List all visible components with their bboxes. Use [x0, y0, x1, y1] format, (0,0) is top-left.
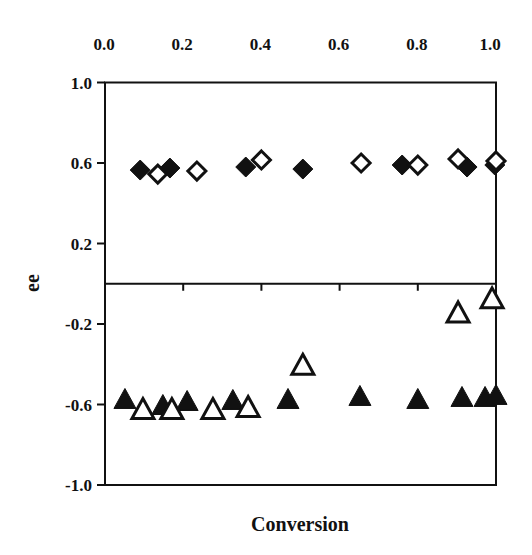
- y-tick-label: 0.2: [71, 235, 92, 254]
- x-axis-title: Conversion: [251, 513, 349, 535]
- scatter-chart: 0.00.20.40.60.81.0 1.00.60.2-0.2-0.6-1.0…: [0, 0, 532, 555]
- y-tick-label: 1.0: [71, 74, 92, 93]
- x-tick-label: 1.0: [479, 35, 500, 54]
- filled-triangle-marker: [222, 389, 244, 409]
- y-axis-title: ee: [21, 274, 43, 292]
- filled-triangle-marker: [451, 386, 473, 406]
- open-diamond-marker: [352, 154, 370, 172]
- filled-triangle-marker: [277, 388, 299, 408]
- open-triangle-marker: [447, 302, 469, 322]
- open-triangle-marker: [292, 354, 314, 374]
- y-tick-label: -1.0: [65, 476, 92, 495]
- open-diamond-marker: [409, 156, 427, 174]
- open-triangle-marker: [481, 288, 503, 308]
- x-tick-label: 0.8: [406, 35, 427, 54]
- filled-triangle-marker: [349, 385, 371, 405]
- y-axis-tick-labels: 1.00.60.2-0.2-0.6-1.0: [65, 74, 92, 496]
- x-tick-label: 0.4: [250, 35, 272, 54]
- open-triangle-marker: [202, 399, 224, 419]
- zero-line: [105, 284, 496, 291]
- filled-diamond-marker: [130, 160, 150, 180]
- y-tick-label: -0.6: [65, 396, 92, 415]
- series-open-diamond: [149, 150, 505, 183]
- x-axis-tick-labels: 0.00.20.40.60.81.0: [93, 35, 500, 54]
- open-diamond-marker: [188, 162, 206, 180]
- filled-diamond-marker: [293, 159, 313, 179]
- filled-triangle-marker: [407, 388, 429, 408]
- x-tick-label: 0.0: [93, 35, 114, 54]
- y-tick-label: 0.6: [71, 154, 92, 173]
- filled-triangle-marker: [176, 390, 198, 410]
- filled-triangle-marker: [114, 388, 136, 408]
- x-tick-label: 0.2: [172, 35, 193, 54]
- y-tick-label: -0.2: [65, 315, 92, 334]
- x-tick-label: 0.6: [328, 35, 349, 54]
